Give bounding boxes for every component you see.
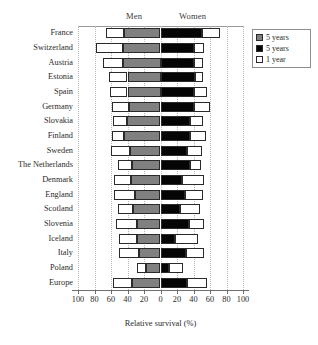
segment-men-1-year	[111, 146, 130, 156]
segment-women-5-years	[161, 87, 194, 97]
segment-women-1-year	[195, 72, 202, 82]
tick-mark-4	[144, 291, 145, 294]
category-label: Italy	[58, 247, 73, 259]
bar-row: Denmark	[78, 173, 243, 188]
column-header-women: Women	[179, 11, 206, 21]
tick-mark-10	[243, 291, 244, 294]
segment-men-5-years	[130, 146, 161, 156]
bar-row: Europe	[78, 275, 243, 290]
segment-men-5-years	[128, 72, 161, 82]
segment-women-5-years	[161, 190, 186, 200]
segment-men-1-year	[118, 160, 133, 170]
segment-women-5-years	[161, 58, 195, 68]
segment-women-5-years	[161, 116, 191, 126]
legend-label: 5 years	[266, 33, 289, 42]
segment-men-5-years	[123, 43, 161, 53]
bar-row: Sweden	[78, 143, 243, 158]
segment-women-1-year	[189, 219, 205, 229]
legend-item-2[interactable]: 1 year	[256, 54, 307, 64]
tick-mark-7	[194, 291, 195, 294]
segment-men-1-year	[113, 278, 132, 288]
segment-women-1-year	[175, 234, 197, 244]
tick-label-8: 60	[206, 295, 214, 304]
segment-women-1-year	[187, 278, 207, 288]
segment-men-5-years	[123, 58, 160, 68]
segment-women-5-years	[161, 72, 196, 82]
category-label: Scotland	[44, 203, 73, 215]
category-label: Germany	[42, 101, 73, 113]
bar-row: Iceland	[78, 231, 243, 246]
segment-women-5-years	[161, 204, 181, 214]
segment-men-1-year	[119, 248, 139, 258]
legend: 5 years5 years1 year	[252, 29, 311, 68]
bar-row: Scotland	[78, 202, 243, 217]
tick-label-2: 60	[107, 295, 115, 304]
segment-men-5-years	[146, 263, 161, 273]
bar-row: Slovenia	[78, 217, 243, 232]
segment-men-5-years	[127, 116, 161, 126]
tick-mark-1	[95, 291, 96, 294]
segment-men-1-year	[112, 102, 129, 112]
segment-men-1-year	[113, 116, 126, 126]
segment-women-1-year	[180, 204, 200, 214]
segment-men-5-years	[137, 234, 160, 244]
bar-row: Spain	[78, 85, 243, 100]
tick-mark-3	[128, 291, 129, 294]
tick-label-10: 100	[237, 295, 249, 304]
segment-men-1-year	[112, 131, 124, 141]
segment-men-5-years	[131, 175, 161, 185]
bar-row: Switzerland	[78, 41, 243, 56]
segment-women-5-years	[161, 219, 189, 229]
tick-mark-5	[161, 291, 162, 294]
bar-row: The Netherlands	[78, 158, 243, 173]
category-label: Slovakia	[44, 115, 73, 127]
segment-men-5-years	[124, 28, 160, 38]
segment-women-1-year	[190, 116, 202, 126]
segment-women-1-year	[194, 58, 202, 68]
segment-women-1-year	[194, 87, 207, 97]
segment-men-5-years	[135, 190, 161, 200]
category-label: Austria	[49, 57, 73, 69]
tick-mark-0	[78, 291, 79, 294]
segment-men-5-years	[137, 219, 161, 229]
tick-label-6: 20	[173, 295, 181, 304]
category-label: England	[45, 189, 73, 201]
segment-men-5-years	[129, 102, 160, 112]
segment-women-5-years	[161, 28, 202, 38]
bar-row: Finland	[78, 129, 243, 144]
category-label: Iceland	[49, 233, 73, 245]
category-label: Denmark	[42, 174, 73, 186]
segment-men-1-year	[119, 234, 137, 244]
segment-men-1-year	[137, 263, 145, 273]
segment-women-5-years	[161, 102, 195, 112]
category-label: Estonia	[48, 71, 73, 83]
x-axis-label: Relative survival (%)	[78, 319, 243, 328]
legend-item-0[interactable]: 5 years	[256, 32, 307, 42]
tick-label-7: 40	[189, 295, 197, 304]
tick-label-9: 80	[222, 295, 230, 304]
bar-row: France	[78, 26, 243, 41]
legend-item-1[interactable]: 5 years	[256, 43, 307, 53]
segment-women-1-year	[185, 190, 203, 200]
relative-survival-chart: Men Women FranceSwitzerlandAustriaEstoni…	[0, 0, 318, 345]
bar-row: Poland	[78, 261, 243, 276]
segment-women-1-year	[194, 102, 210, 112]
category-label: Finland	[48, 130, 73, 142]
segment-women-1-year	[190, 131, 206, 141]
bar-row: Slovakia	[78, 114, 243, 129]
segment-men-1-year	[118, 204, 134, 214]
legend-swatch-white-icon	[256, 56, 263, 63]
category-label: Poland	[50, 262, 73, 274]
segment-men-1-year	[103, 58, 124, 68]
segment-women-1-year	[190, 160, 201, 170]
segment-women-5-years	[161, 175, 182, 185]
tick-label-5: 0	[158, 295, 162, 304]
category-label: Europe	[49, 277, 73, 289]
segment-men-1-year	[116, 219, 137, 229]
tick-mark-8	[210, 291, 211, 294]
tick-mark-6	[177, 291, 178, 294]
category-label: France	[50, 27, 73, 39]
bar-row: Austria	[78, 55, 243, 70]
tick-label-0: 100	[72, 295, 84, 304]
segment-women-5-years	[161, 278, 187, 288]
